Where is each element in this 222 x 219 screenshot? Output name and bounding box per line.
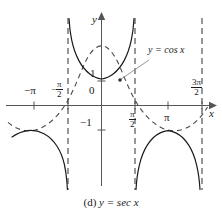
x-tick-label-pi: π [164, 112, 170, 123]
cos-curve-label: y = cos x [148, 45, 184, 55]
caption-formula: y = sec x [99, 196, 138, 208]
figure-sec-x: y x 0 1 −1 −π −π2 π2 π 3π2 y = cos x (d)… [0, 0, 222, 219]
caption-prefix: (d) [83, 196, 96, 208]
denominator: 2 [191, 88, 202, 97]
y-axis-label: y [92, 14, 97, 25]
sec-branch-left [12, 130, 67, 189]
plot-canvas [0, 0, 222, 219]
cos-curve [8, 46, 208, 131]
x-tick-label-half-pi: π2 [129, 110, 136, 129]
origin-label: 0 [89, 85, 95, 96]
sec-branch-right [136, 131, 200, 190]
x-tick-label-neg-pi: −π [24, 85, 36, 96]
y-tick-label-1: 1 [90, 68, 96, 79]
x-axis [6, 102, 217, 109]
denominator: 2 [129, 120, 136, 129]
y-axis [98, 12, 105, 186]
figure-caption: (d) y = sec x [0, 196, 222, 208]
y-tick-label-neg-1: −1 [80, 117, 92, 128]
x-tick-label-neg-half-pi: −π2 [51, 80, 63, 99]
x-axis-label: x [209, 108, 214, 119]
x-tick-label-three-half-pi: 3π2 [191, 78, 202, 97]
denominator: 2 [56, 90, 63, 99]
